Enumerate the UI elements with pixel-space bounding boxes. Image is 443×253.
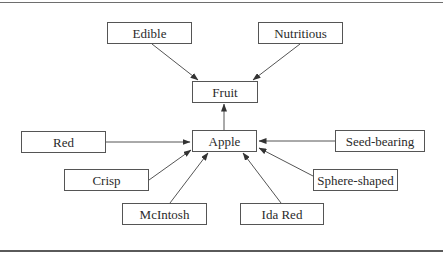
node-label: Edible xyxy=(133,27,167,40)
edge-crisp-to-apple xyxy=(149,150,191,180)
node-edible: Edible xyxy=(107,22,192,44)
node-label: Apple xyxy=(209,135,241,148)
node-label: Nutritious xyxy=(274,27,327,40)
node-label: McIntosh xyxy=(140,208,190,221)
node-mcintosh: McIntosh xyxy=(122,203,207,225)
node-label: Fruit xyxy=(212,86,237,99)
node-red: Red xyxy=(21,131,106,153)
edge-nutritious-to-fruit xyxy=(253,44,300,80)
node-label: Seed-bearing xyxy=(346,135,415,148)
node-label: Ida Red xyxy=(262,208,303,221)
node-sphere-shaped: Sphere-shaped xyxy=(313,169,398,191)
node-label: Red xyxy=(53,136,74,149)
edge-ida-red-to-apple xyxy=(243,153,281,203)
edge-edible-to-fruit xyxy=(152,44,198,80)
node-fruit: Fruit xyxy=(192,81,258,103)
node-crisp: Crisp xyxy=(64,169,149,191)
edges-layer xyxy=(0,0,443,253)
node-apple: Apple xyxy=(192,130,257,152)
node-seed-bearing: Seed-bearing xyxy=(335,130,425,152)
node-ida-red: Ida Red xyxy=(240,203,324,225)
node-label: Crisp xyxy=(92,174,120,187)
edge-sphere-shaped-to-apple xyxy=(259,148,313,176)
node-nutritious: Nutritious xyxy=(258,22,343,44)
node-label: Sphere-shaped xyxy=(317,174,394,187)
